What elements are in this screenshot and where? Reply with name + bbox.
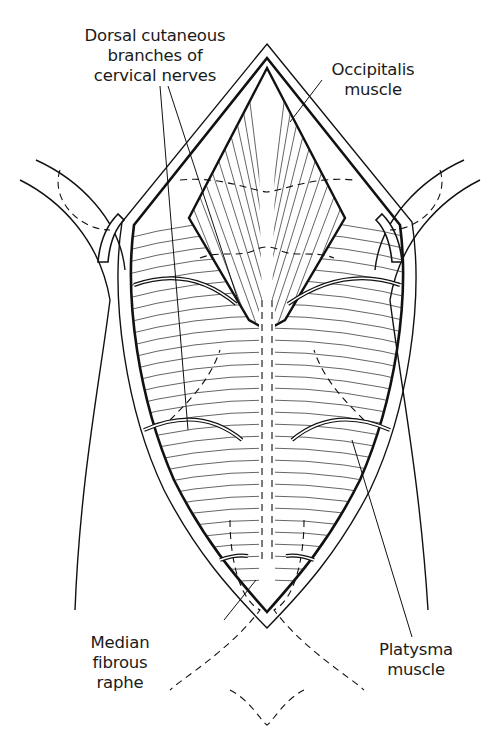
- label-line: branches of: [60, 46, 250, 66]
- label-line: cervical nerves: [60, 66, 250, 86]
- label-median-fibrous-raphe: Median fibrous raphe: [70, 633, 170, 693]
- illustration: [0, 0, 500, 731]
- label-occipitalis-muscle: Occipitalis muscle: [318, 60, 428, 100]
- label-line: Occipitalis: [318, 60, 428, 80]
- label-line: Platysma: [366, 640, 466, 660]
- label-line: raphe: [70, 673, 170, 693]
- label-dorsal-cutaneous-branches: Dorsal cutaneous branches of cervical ne…: [60, 26, 250, 86]
- label-line: Median: [70, 633, 170, 653]
- median-raphe: [259, 300, 275, 600]
- label-line: muscle: [318, 80, 428, 100]
- label-platysma-muscle: Platysma muscle: [366, 640, 466, 680]
- label-line: fibrous: [70, 653, 170, 673]
- label-line: muscle: [366, 660, 466, 680]
- anatomy-diagram: Dorsal cutaneous branches of cervical ne…: [0, 0, 500, 731]
- label-line: Dorsal cutaneous: [60, 26, 250, 46]
